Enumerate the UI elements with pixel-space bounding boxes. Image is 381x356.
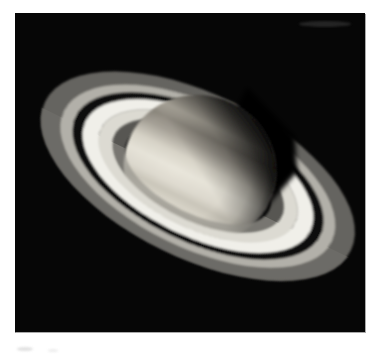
- saturn-photo: [15, 13, 365, 332]
- caption-remnant-smudge: [17, 347, 33, 351]
- scan-artifact-streak: [299, 21, 351, 27]
- saturn-image: [15, 13, 365, 332]
- caption-remnant-smudge-2: [48, 349, 58, 352]
- page-background: [0, 0, 381, 356]
